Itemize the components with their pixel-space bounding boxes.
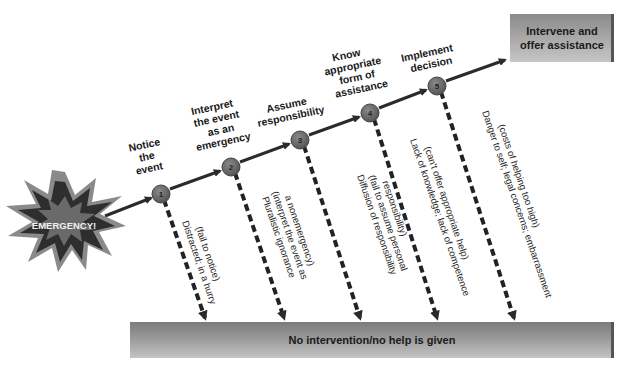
step-number: 5	[435, 82, 440, 91]
failure-reason-5: Danger to self; legal concerns; embarras…	[480, 105, 565, 299]
step-number: 2	[229, 163, 234, 172]
failure-reason-1: Distracted; in a hurry (fail to notice)	[180, 215, 229, 305]
no-intervention-label: No intervention/no help is given	[289, 334, 456, 346]
no-intervention-bar: No intervention/no help is given	[130, 322, 614, 358]
intervene-label-line2: offer assistance	[520, 39, 604, 51]
bystander-intervention-diagram: EMERGENCY! 1 2 3 4 5 Notice the event In…	[0, 0, 625, 365]
step-node-2: 2	[222, 158, 240, 176]
emergency-label: EMERGENCY!	[32, 220, 96, 231]
emergency-starburst: EMERGENCY!	[6, 170, 126, 272]
step-node-5: 5	[428, 77, 446, 95]
failure-reason-4: Lack of knowledge; lack of competence (c…	[408, 133, 483, 297]
step-number: 3	[298, 136, 303, 145]
step-number: 4	[368, 109, 373, 118]
intervene-box: Intervene and offer assistance	[510, 14, 614, 62]
failure-reason-3: Diffusion of responsibility (fail to ass…	[355, 166, 420, 276]
svg-text:Danger to self; legal concerns: Danger to self; legal concerns; embarras…	[480, 109, 555, 299]
step-label-4: Know appropriate form of assistance	[321, 42, 390, 101]
step-label-1: Notice the event	[127, 135, 166, 177]
step-node-4: 4	[361, 104, 379, 122]
step-label-5: Implement decision	[400, 41, 457, 75]
step-number: 1	[159, 190, 164, 199]
step-node-1: 1	[152, 185, 170, 203]
intervene-label-line1: Intervene and	[526, 25, 598, 37]
step-label-3: Assume responsibility	[254, 91, 326, 129]
step-node-3: 3	[291, 131, 309, 149]
step-label-2: Interpret the event as an emergency	[187, 94, 251, 153]
